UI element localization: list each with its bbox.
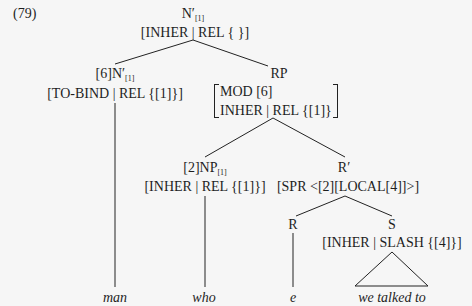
node-s-category: S	[388, 217, 396, 233]
tree-branches	[0, 0, 472, 306]
node-np-features: [INHER | REL {[1]}]	[144, 179, 265, 195]
leaf-man: man	[103, 290, 127, 306]
leaf-who: who	[192, 290, 215, 306]
node-root-features: [INHER | REL { }]	[141, 25, 249, 41]
node-head-noun-category: [6]N′[1]	[96, 66, 135, 82]
node-rp-category: RP	[270, 66, 287, 82]
node-head-noun-features: [TO-BIND | REL {[1]}]	[47, 86, 183, 102]
leaf-we-talked-to: we talked to	[358, 290, 426, 306]
leaf-e: e	[290, 290, 296, 306]
branch-rbar-left	[296, 196, 345, 216]
example-number: (79)	[13, 6, 36, 22]
node-s-features: [INHER | SLASH {[4]}]	[322, 235, 462, 251]
avm-row-mod: MOD [6]	[220, 82, 332, 101]
branch-rp-right	[273, 118, 345, 157]
branch-root-right	[193, 40, 268, 66]
node-rbar-features: [SPR <[2][LOCAL[4]]>]	[277, 179, 419, 195]
node-np-category: [2]NP[1]	[183, 160, 227, 176]
node-rbar-category: R′	[338, 160, 350, 176]
node-r-category: R	[288, 217, 297, 233]
node-root-category: N′[1]	[182, 6, 205, 22]
triangle-s	[355, 252, 428, 286]
node-rp-avm: MOD [6] INHER | REL {[1]}	[214, 82, 338, 120]
branch-root-left	[115, 40, 193, 64]
branch-rbar-right	[345, 196, 392, 216]
avm-row-inher-rel: INHER | REL {[1]}	[220, 101, 332, 120]
branch-rp-left	[205, 118, 273, 157]
